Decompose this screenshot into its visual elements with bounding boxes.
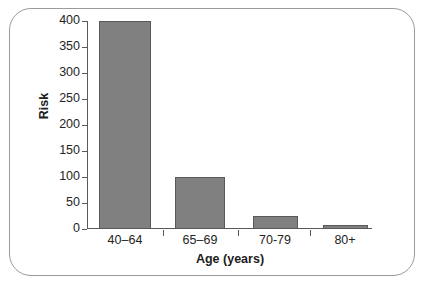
bar (99, 21, 151, 229)
y-tick-label: 50 (66, 195, 80, 209)
y-tick-mark (82, 99, 87, 100)
plot-area: 050100150200250300350400 (87, 21, 372, 229)
y-tick-label: 300 (59, 65, 80, 79)
x-tick-label: 80+ (305, 233, 385, 247)
x-tick-label: 65–69 (160, 233, 240, 247)
y-tick-mark (82, 73, 87, 74)
y-tick-label: 400 (59, 13, 80, 27)
bar (323, 225, 368, 229)
y-tick-mark (82, 203, 87, 204)
bar (175, 177, 225, 229)
y-tick-mark (82, 21, 87, 22)
y-tick-mark (82, 229, 87, 230)
y-tick-mark (82, 47, 87, 48)
x-tick-label: 70-79 (235, 233, 315, 247)
x-tick-label: 40–64 (85, 233, 165, 247)
figure: Risk Age (years) 05010015020025030035040… (0, 0, 431, 287)
y-tick-label: 350 (59, 39, 80, 53)
y-tick-mark (82, 177, 87, 178)
y-tick-mark (82, 125, 87, 126)
x-axis-label: Age (years) (85, 252, 375, 266)
y-axis-label: Risk (34, 76, 54, 136)
y-tick-label: 200 (59, 117, 80, 131)
y-tick-mark (82, 151, 87, 152)
y-tick-label: 250 (59, 91, 80, 105)
y-tick-label: 150 (59, 143, 80, 157)
y-tick-label: 0 (73, 221, 80, 235)
y-tick-label: 100 (59, 169, 80, 183)
bar (253, 216, 298, 229)
